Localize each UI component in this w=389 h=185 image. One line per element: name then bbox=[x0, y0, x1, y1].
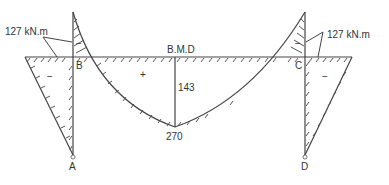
left-support-moment-label: 127 kN.m bbox=[5, 26, 48, 37]
left-column-sign: − bbox=[47, 71, 53, 82]
right-hogging-sign: − bbox=[295, 38, 301, 49]
node-c-label: C bbox=[295, 60, 302, 71]
bending-moment-diagram: 127 kN.m 127 kN.m B.M.D 143 270 B C A D … bbox=[0, 0, 389, 185]
midspan-net-moment-label: 143 bbox=[178, 82, 195, 93]
left-hogging-sign: − bbox=[76, 38, 82, 49]
diagram-title: B.M.D bbox=[167, 44, 195, 55]
node-b-label: B bbox=[76, 60, 83, 71]
beam-baseline bbox=[25, 57, 352, 62]
node-a-label: A bbox=[69, 161, 76, 172]
beam-moment-curve bbox=[73, 12, 305, 127]
sagging-sign: + bbox=[140, 69, 146, 80]
midspan-free-moment-label: 270 bbox=[166, 131, 183, 142]
right-support-moment-label: 127 kN.m bbox=[327, 29, 370, 40]
node-d-label: D bbox=[301, 161, 308, 172]
right-column-sign: − bbox=[322, 71, 328, 82]
